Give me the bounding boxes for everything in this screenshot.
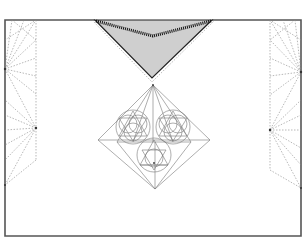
motif-circle-left bbox=[116, 110, 150, 144]
geometric-motif bbox=[98, 84, 210, 189]
left-dashed-fan bbox=[4, 20, 37, 186]
right-dashed-fan bbox=[269, 20, 302, 189]
neckline bbox=[92, 20, 215, 82]
motif-circle-bottom bbox=[137, 138, 171, 172]
pattern-diagram bbox=[0, 0, 307, 240]
